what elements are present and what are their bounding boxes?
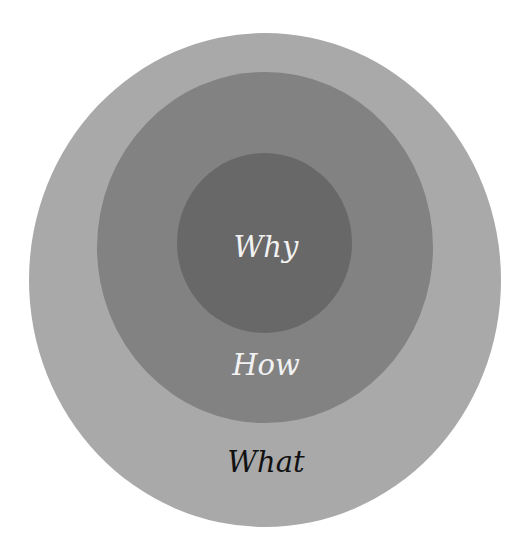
how-label: How (186, 351, 346, 380)
why-label: Why (186, 233, 346, 262)
what-label: What (186, 448, 346, 477)
golden-circle-diagram: Why How What (0, 0, 522, 548)
